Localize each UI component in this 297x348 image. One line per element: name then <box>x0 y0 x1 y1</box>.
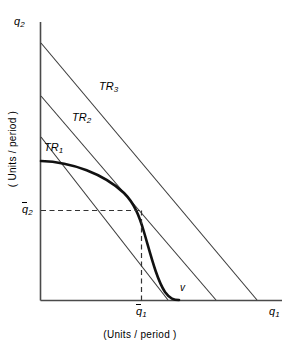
iso-revenue-label-tr3: TR3 <box>99 81 118 94</box>
x-axis-units-label: (Units / period ) <box>80 330 200 340</box>
transformation-curve-svg <box>0 0 297 348</box>
iso-revenue-line-tr3 <box>41 43 257 300</box>
tick-label-q1bar: q1 <box>136 306 147 319</box>
iso-revenue-label-tr1: TR1 <box>44 142 63 155</box>
x-axis-variable-label: q1 <box>269 306 280 319</box>
iso-revenue-label-tr2: TR2 <box>72 112 91 125</box>
curve-label-v: v <box>180 283 185 293</box>
economics-diagram: q2 q1 TR3 TR2 TR1 v q2 q1 ( Units / peri… <box>0 0 297 348</box>
tick-label-q2bar: q2 <box>22 204 33 217</box>
y-axis-variable-label: q2 <box>14 16 25 29</box>
y-axis-units-label: ( Units / period ) <box>8 89 18 209</box>
iso-revenue-line-tr1 <box>41 137 168 300</box>
